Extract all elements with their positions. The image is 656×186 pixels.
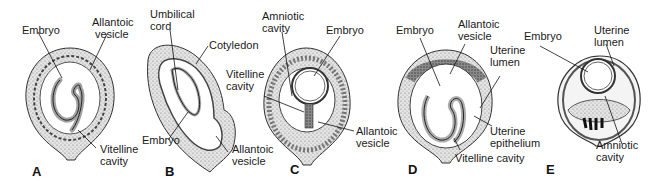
panel-b-drawing [148, 30, 236, 172]
panel-label-c: C [290, 162, 299, 177]
label-d-embryo: Embryo [396, 24, 434, 36]
embryo-development-figure: Embryo Allantoic vesicle Vitelline cavit… [0, 0, 656, 186]
panel-e-drawing [540, 44, 640, 146]
panel-label-b: B [165, 164, 174, 179]
panel-d-drawing [398, 38, 500, 163]
label-d-uterine-lumen-line1: Uterine [490, 44, 525, 56]
label-a-embryo: Embryo [22, 24, 60, 36]
label-b-allantoic-vesicle-line1: Allantoic [232, 143, 274, 155]
label-a-allantoic-vesicle-line2: vesicle [95, 28, 129, 40]
label-a-vitelline-cavity-line1: Vitelline [100, 143, 138, 155]
label-c-allantoic-vesicle-line2: vesicle [356, 137, 390, 149]
label-c-embryo: Embryo [326, 24, 364, 36]
label-b-embryo: Embryo [142, 134, 180, 146]
label-e-uterine-lumen-line1: Uterine [594, 24, 629, 36]
label-d-uterine-epithelium-line2: epithelium [490, 137, 540, 149]
label-d-uterine-lumen-line2: lumen [490, 56, 520, 68]
label-b-cotyledon: Cotyledon [209, 39, 259, 51]
panel-a-drawing [26, 32, 114, 160]
label-c-amniotic-cavity-line1: Amniotic [262, 10, 304, 22]
label-e-uterine-lumen-line2: lumen [594, 36, 624, 48]
label-c-amniotic-cavity-line2: cavity [262, 22, 290, 34]
label-c-allantoic-vesicle-line1: Allantoic [356, 125, 398, 137]
label-a-allantoic-vesicle-line1: Allantoic [92, 16, 134, 28]
panel-label-a: A [32, 164, 41, 179]
label-b-umbilical-cord-line1: Umbilical [150, 8, 195, 20]
label-c-vitelline-cavity-line1: Vitelline [226, 68, 264, 80]
label-b-umbilical-cord-line2: cord [150, 20, 171, 32]
label-b-allantoic-vesicle-line2: vesicle [232, 155, 266, 167]
label-e-amniotic-cavity-line2: cavity [596, 151, 624, 163]
label-d-uterine-epithelium-line1: Uterine [490, 125, 525, 137]
label-e-amniotic-cavity-line1: Amniotic [596, 139, 638, 151]
label-d-vitelline-cavity: Vitelline cavity [455, 152, 525, 164]
panel-c-drawing [264, 32, 354, 165]
label-d-allantoic-vesicle-line2: vesicle [458, 30, 492, 42]
label-c-vitelline-cavity-line2: cavity [226, 80, 254, 92]
label-a-vitelline-cavity-line2: cavity [100, 155, 128, 167]
panel-label-e: E [546, 162, 555, 177]
panel-label-d: D [408, 162, 417, 177]
label-d-allantoic-vesicle-line1: Allantoic [458, 18, 500, 30]
label-e-embryo: Embryo [524, 30, 562, 42]
